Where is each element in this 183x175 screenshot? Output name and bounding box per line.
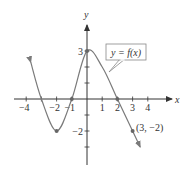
y-axis-label: y — [83, 9, 89, 20]
x-tick-label: 3 — [130, 102, 135, 113]
x-tick-label: 1 — [100, 102, 105, 113]
marked-point — [85, 49, 89, 53]
x-axis-label: x — [174, 94, 180, 105]
x-tick-labels: −4−2−11234 — [19, 102, 150, 113]
function-label-callout: y = f(x) — [106, 44, 146, 72]
marked-points — [55, 49, 135, 133]
marked-point — [70, 97, 74, 101]
marked-point — [115, 97, 119, 101]
y-tick-label: 3 — [78, 46, 83, 57]
point-label-3-neg2: (3, −2) — [136, 122, 163, 134]
y-tick-label: −2 — [72, 126, 83, 137]
x-tick-label: −4 — [19, 102, 30, 113]
function-graph: −4−2−11234 3−2 x y y = f(x) (3, −2) — [0, 0, 183, 175]
function-label: y = f(x) — [110, 47, 142, 59]
curve-f-of-x — [31, 50, 140, 147]
marked-point — [131, 129, 135, 133]
marked-point — [55, 129, 59, 133]
x-tick-label: −2 — [49, 102, 60, 113]
x-tick-label: 4 — [145, 102, 150, 113]
